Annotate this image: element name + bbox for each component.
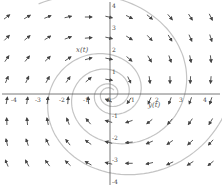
direction-arrow xyxy=(86,119,91,124)
direction-arrow xyxy=(67,118,70,125)
direction-arrow xyxy=(105,16,112,18)
direction-arrow xyxy=(68,97,69,104)
direction-arrow xyxy=(190,55,191,62)
direction-arrow xyxy=(146,162,153,164)
direction-arrow xyxy=(66,140,70,146)
direction-arrow xyxy=(147,35,152,40)
direction-arrow xyxy=(105,58,112,59)
direction-arrows xyxy=(4,14,214,167)
direction-arrow xyxy=(168,35,172,41)
direction-arrow xyxy=(146,141,152,144)
direction-arrow xyxy=(167,162,173,165)
y-tick-label: -3 xyxy=(112,156,118,163)
direction-arrow xyxy=(167,140,173,144)
direction-arrow xyxy=(147,119,152,123)
direction-arrow xyxy=(210,97,212,104)
direction-arrow xyxy=(189,97,191,104)
direction-arrow xyxy=(105,121,112,123)
direction-arrow xyxy=(44,16,50,19)
y-tick-label: 3 xyxy=(112,24,116,31)
y-tick-label: 4 xyxy=(112,2,116,9)
direction-arrow xyxy=(149,76,150,83)
direction-arrow xyxy=(45,36,51,40)
direction-arrow xyxy=(24,15,30,19)
direction-arrow xyxy=(65,37,72,39)
direction-arrow xyxy=(148,56,152,62)
x-tick-label: -3 xyxy=(35,96,41,103)
direction-arrow xyxy=(127,57,132,62)
direction-arrow xyxy=(4,15,10,19)
direction-arrow xyxy=(188,140,193,145)
direction-arrow xyxy=(5,76,8,82)
direction-arrow xyxy=(4,35,9,40)
direction-arrow xyxy=(86,140,92,144)
y-tick-label: -1 xyxy=(112,112,118,119)
direction-arrow xyxy=(208,161,213,165)
y-tick-label: 2 xyxy=(112,46,116,53)
x-tick-label: 4 xyxy=(203,96,207,103)
direction-arrow xyxy=(209,118,213,124)
y-tick-label: 1 xyxy=(112,68,116,75)
direction-arrow xyxy=(27,97,28,104)
direction-arrow xyxy=(6,97,7,104)
direction-arrow xyxy=(85,58,92,60)
direction-arrow xyxy=(26,77,29,83)
direction-arrow xyxy=(189,14,193,20)
direction-arrow xyxy=(126,15,132,18)
direction-arrow xyxy=(168,14,173,19)
y-tick-label: -4 xyxy=(112,178,118,185)
direction-arrow xyxy=(65,161,70,166)
direction-arrow xyxy=(188,119,192,125)
direction-arrow xyxy=(168,119,173,124)
direction-arrow xyxy=(26,139,28,146)
x-tick-label: 0 xyxy=(107,96,111,103)
direction-arrow xyxy=(210,35,212,42)
direction-arrow xyxy=(66,77,70,83)
x-tick-label: 1 xyxy=(131,96,135,103)
solution-curves xyxy=(39,0,222,175)
direction-arrow xyxy=(169,55,171,62)
direction-arrow xyxy=(5,56,9,62)
direction-arrow xyxy=(209,14,212,20)
tick-labels: -4-3-2-1012344321-1-2-3-4 xyxy=(11,2,207,185)
direction-arrow xyxy=(65,57,71,61)
direction-arrow xyxy=(105,37,112,39)
direction-arrow xyxy=(189,35,192,41)
x-of-t-label: x(t) xyxy=(76,46,88,54)
direction-arrow xyxy=(5,160,8,166)
direction-arrow xyxy=(27,118,28,125)
direction-arrow xyxy=(46,139,49,145)
direction-arrow xyxy=(208,140,213,145)
y-tick-label: -2 xyxy=(112,134,118,141)
direction-arrow xyxy=(65,16,72,18)
direction-arrow xyxy=(86,77,91,82)
direction-arrow xyxy=(128,77,131,83)
y-of-t-label: y(t) xyxy=(147,101,160,109)
direction-arrow xyxy=(126,120,133,122)
direction-arrow xyxy=(46,160,50,166)
direction-arrow xyxy=(45,56,50,61)
x-tick-label: -1 xyxy=(83,96,89,103)
vector-field-plot: -4-3-2-1012344321-1-2-3-4 x(t) y(t) xyxy=(0,0,222,187)
x-tick-label: 3 xyxy=(179,96,183,103)
x-tick-label: -4 xyxy=(11,96,17,103)
direction-arrow xyxy=(25,56,29,61)
direction-arrow xyxy=(47,118,48,125)
direction-arrow xyxy=(24,36,29,40)
direction-arrow xyxy=(105,79,112,80)
x-tick-label: -2 xyxy=(59,96,65,103)
direction-arrow xyxy=(210,76,211,83)
direction-arrow xyxy=(187,161,193,165)
direction-arrow xyxy=(210,55,211,62)
direction-arrow xyxy=(126,36,132,40)
direction-arrow xyxy=(85,38,92,39)
direction-arrow xyxy=(26,160,29,166)
direction-arrow xyxy=(169,97,171,104)
direction-arrow xyxy=(6,139,8,146)
direction-arrow xyxy=(46,77,49,83)
